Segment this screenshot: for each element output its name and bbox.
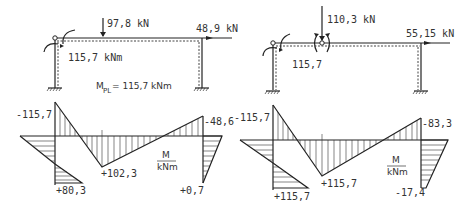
moment-arrow-icon xyxy=(263,48,277,56)
moment-value-label: +0,7 xyxy=(180,185,204,196)
moment-value-label: -115,7 xyxy=(16,109,52,120)
diagram-outline xyxy=(55,102,203,167)
right-vertical-load-label: 110,3 kN xyxy=(327,14,375,25)
fixed-support-icon xyxy=(194,88,209,91)
moment-value-label: -48,6 xyxy=(204,116,234,127)
arrowhead-icon xyxy=(314,33,319,37)
horizontal-load-arrow-icon xyxy=(424,41,431,45)
moment-arrow-icon xyxy=(44,44,58,52)
plastic-moment-subscript: PL xyxy=(103,87,111,95)
fixed-support-icon xyxy=(47,88,62,91)
left-frame-system: 97,8 kN 48,9 kN 115,7 kNm M PL = 115,7 k… xyxy=(44,18,238,95)
diagram-outline xyxy=(421,140,448,188)
moment-arrow-icon xyxy=(281,34,290,50)
fixed-support-icon xyxy=(265,91,280,94)
plastic-hinge-icon xyxy=(271,41,275,45)
arrowhead-icon xyxy=(319,36,325,41)
moment-value-label: +115,7 xyxy=(274,191,310,202)
right-moment-diagram: -115,7 +115,7 +115,7 -83,3 -17,4 M kNm xyxy=(234,105,452,202)
plastic-hinge-icon xyxy=(320,41,324,45)
left-vertical-load-label: 97,8 kN xyxy=(107,18,149,29)
unit-label: M xyxy=(392,155,400,165)
plastic-hinge-icon xyxy=(53,36,57,40)
moment-value-label: -17,4 xyxy=(395,187,425,198)
moment-value-label: +102,3 xyxy=(101,168,137,179)
right-horizontal-load-label: 55,15 kN xyxy=(406,28,454,39)
plastic-moment-value: = 115,7 kNm xyxy=(112,81,172,91)
right-hinge-moment-label: 115,7 xyxy=(292,59,322,70)
hatching xyxy=(203,141,220,176)
frame-moment-diagrams: 97,8 kN 48,9 kN 115,7 kNm M PL = 115,7 k… xyxy=(0,0,465,212)
fixed-support-icon xyxy=(413,91,428,94)
right-frame-system: 110,3 kN 55,15 kN 115,7 xyxy=(263,6,454,94)
horizontal-load-arrow-icon xyxy=(206,36,213,40)
unit-label: M xyxy=(162,150,170,160)
left-horizontal-load-label: 48,9 kN xyxy=(196,23,238,34)
moment-value-label: +80,3 xyxy=(56,185,86,196)
diagram-outline xyxy=(20,136,82,183)
diagram-outline xyxy=(240,140,308,188)
moment-value-label: -83,3 xyxy=(422,118,452,129)
hatching xyxy=(421,145,446,180)
left-moment-diagram: -115,7 +80,3 +102,3 -48,6 +0,7 M kNm xyxy=(16,102,234,196)
moment-value-label: -115,7 xyxy=(234,112,270,123)
arrowhead-icon xyxy=(325,33,330,37)
arrowhead-icon xyxy=(60,44,64,48)
moment-arrow-icon xyxy=(63,30,75,44)
arrowhead-icon xyxy=(100,32,106,37)
unit-label: kNm xyxy=(157,162,178,172)
unit-label: kNm xyxy=(387,167,408,177)
left-hinge-moment-label: 115,7 kNm xyxy=(68,52,122,63)
moment-value-label: +115,7 xyxy=(321,178,357,189)
